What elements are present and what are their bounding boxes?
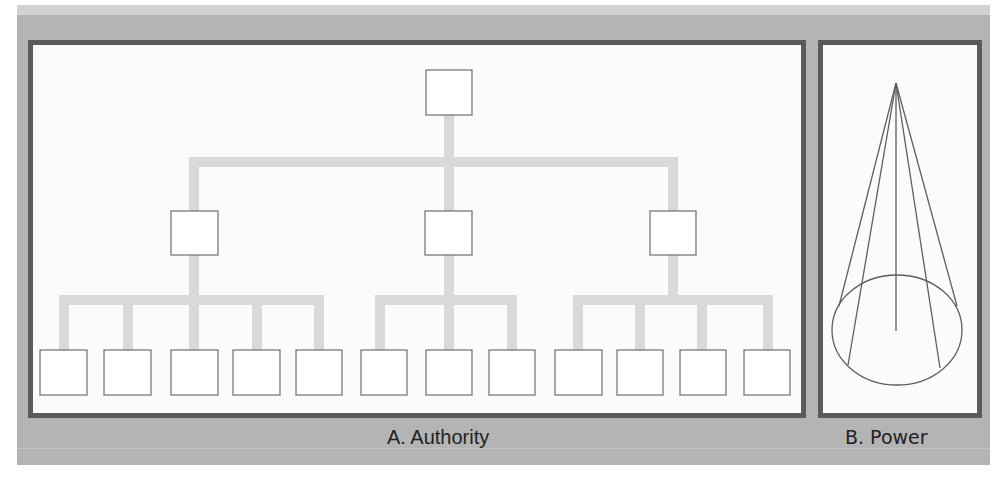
node-level1: [171, 211, 218, 255]
power-caption: B. Power: [845, 426, 928, 448]
node-level2: [744, 350, 790, 395]
node-level2: [361, 350, 407, 395]
node-level2: [680, 350, 726, 395]
org-chart-nodes: [40, 70, 790, 395]
node-level2: [555, 350, 602, 395]
node-level2: [233, 350, 280, 395]
node-level2: [489, 350, 535, 395]
node-level2: [40, 350, 87, 395]
node-level2: [426, 350, 472, 395]
node-level1: [650, 211, 696, 255]
node-level2: [617, 350, 663, 395]
cone-base-ellipse: [832, 275, 962, 385]
power-cone: [832, 83, 962, 385]
node-level2: [171, 350, 218, 395]
authority-caption: A. Authority: [387, 426, 489, 449]
node-level2: [104, 350, 151, 395]
diagram-canvas: [0, 0, 997, 478]
node-top: [426, 70, 472, 115]
node-level2: [296, 350, 342, 395]
node-level1: [425, 211, 472, 255]
